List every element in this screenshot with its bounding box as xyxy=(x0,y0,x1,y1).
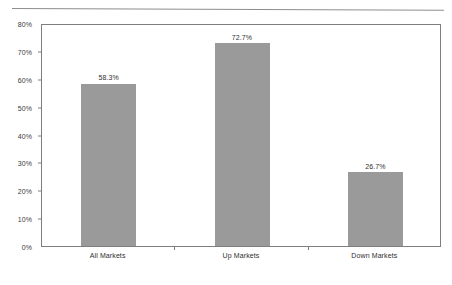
bar-all-markets xyxy=(81,84,136,247)
y-axis-tick-label: 50% xyxy=(18,104,32,111)
bar-value-label: 72.7% xyxy=(232,34,252,41)
plot-frame: 58.3%72.7%26.7% xyxy=(41,24,441,247)
y-axis-tick-label: 10% xyxy=(18,216,32,223)
x-axis-tick-mark xyxy=(308,247,309,250)
bar-up-markets xyxy=(215,43,270,246)
bar-chart-figure: 0%10%20%30%40%50%60%70%80% 58.3%72.7%26.… xyxy=(0,0,452,285)
y-axis-tick-label: 80% xyxy=(18,21,32,28)
y-axis-tick-label: 0% xyxy=(22,244,32,251)
x-axis-tick-mark xyxy=(174,247,175,250)
bar-value-label: 26.7% xyxy=(365,163,385,170)
bar-value-label: 58.3% xyxy=(98,74,118,81)
y-axis-tick-label: 70% xyxy=(18,48,32,55)
y-axis: 0%10%20%30%40%50%60%70%80% xyxy=(0,24,38,247)
header-divider-rule xyxy=(12,8,444,11)
x-axis-category-label: Up Markets xyxy=(223,252,260,259)
x-axis-category-label: Down Markets xyxy=(351,252,397,259)
plot-area: 58.3%72.7%26.7% xyxy=(42,25,440,246)
y-axis-tick-label: 30% xyxy=(18,160,32,167)
y-axis-tick-label: 20% xyxy=(18,188,32,195)
x-axis-category-label: All Markets xyxy=(90,252,126,259)
bar-down-markets xyxy=(348,172,403,246)
y-axis-tick-label: 40% xyxy=(18,132,32,139)
y-axis-tick-label: 60% xyxy=(18,76,32,83)
